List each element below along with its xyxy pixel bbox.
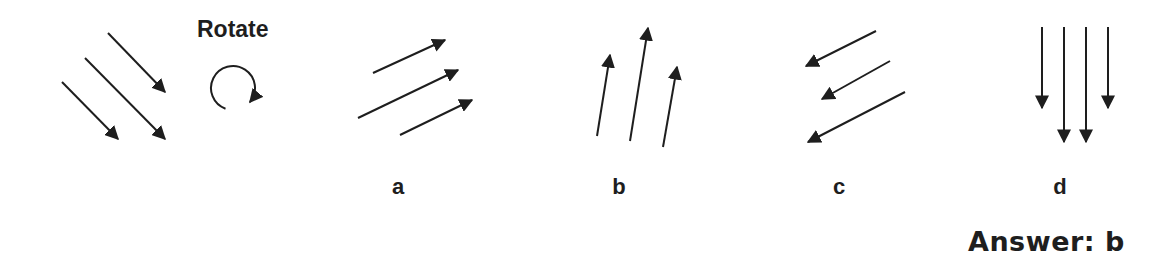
option-c-arrows: [806, 31, 905, 142]
clockwise-rotate-icon: [211, 66, 255, 109]
option-d-arrows: [1042, 27, 1108, 142]
option-label-b: b: [604, 174, 634, 200]
rotate-title: Rotate: [197, 16, 269, 43]
original-arrow-group: [62, 33, 165, 139]
answer-options: [358, 27, 1108, 147]
arrow-icon: [358, 70, 458, 118]
rotate-arc-icon: [211, 66, 255, 109]
arrow-icon: [822, 61, 890, 99]
arrow-icon: [400, 100, 472, 135]
arrow-icon: [806, 31, 876, 66]
arrow-icon: [85, 58, 165, 139]
option-label-c: c: [824, 174, 854, 200]
arrow-icon: [62, 82, 118, 139]
arrow-icon: [663, 67, 677, 147]
rotation-puzzle: Rotate a b c d Answer: b: [0, 0, 1165, 267]
arrow-icon: [108, 33, 165, 92]
option-label-a: a: [383, 174, 413, 200]
option-b-arrows: [597, 28, 677, 147]
option-a-arrows: [358, 40, 472, 135]
answer-text: Answer: b: [968, 226, 1125, 257]
arrow-icon: [630, 28, 648, 141]
arrow-icon: [597, 55, 610, 136]
option-label-d: d: [1045, 174, 1075, 200]
arrow-icon: [373, 40, 445, 73]
